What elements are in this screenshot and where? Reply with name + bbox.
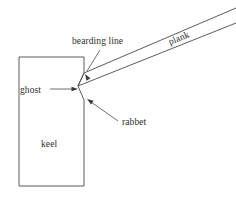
ghost-arrow-icon xyxy=(72,87,79,92)
keel-plank-diagram: bearding line plank ghost rabbet keel xyxy=(0,0,236,197)
label-rabbet: rabbet xyxy=(122,117,147,127)
keel-outline-shape xyxy=(19,57,84,186)
bearding-line-leader xyxy=(87,50,100,71)
label-bearding-line: bearding line xyxy=(72,36,123,46)
plank-lower-edge xyxy=(78,23,236,86)
diagram-canvas: bearding line plank ghost rabbet keel xyxy=(0,0,236,197)
rabbet-leader xyxy=(91,102,118,121)
label-keel: keel xyxy=(41,139,57,149)
label-ghost: ghost xyxy=(20,85,41,95)
bearding-line-arrow-icon xyxy=(83,73,90,81)
label-plank: plank xyxy=(167,29,191,46)
